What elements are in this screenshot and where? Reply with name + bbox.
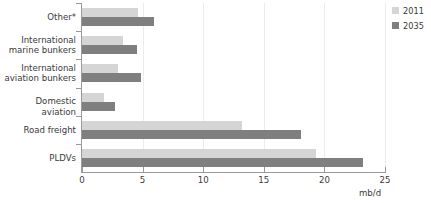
legend-label: 2035 (403, 21, 424, 31)
x-tick-label: 5 (123, 175, 163, 185)
bar-2035 (82, 102, 115, 111)
bar-group (82, 36, 385, 54)
bar-2011 (82, 8, 138, 17)
category-label: International marine bunkers (0, 35, 76, 56)
gridline (264, 3, 265, 172)
x-tick (143, 167, 144, 172)
y-tick (76, 144, 81, 145)
category-label: Road freight (0, 125, 76, 136)
bar-2035 (82, 130, 301, 139)
bar-2011 (82, 121, 242, 130)
legend-label: 2011 (403, 6, 424, 16)
gridline (143, 3, 144, 172)
category-label: International aviation bunkers (0, 63, 76, 84)
x-tick (264, 167, 265, 172)
legend-swatch-icon (392, 22, 399, 29)
bar-group (82, 8, 385, 26)
legend-item: 2035 (392, 21, 424, 30)
legend-swatch-icon (392, 7, 399, 14)
bar-group (82, 93, 385, 111)
gridline (324, 3, 325, 172)
bar-2035 (82, 17, 154, 26)
chart-legend: 20112035 (392, 6, 424, 36)
category-label: PLDVs (0, 153, 76, 164)
x-tick (82, 167, 83, 172)
bar-2011 (82, 36, 123, 45)
bar-2011 (82, 64, 118, 73)
y-tick (76, 116, 81, 117)
category-label: Other* (0, 12, 76, 23)
x-tick (385, 167, 386, 172)
bar-2035 (82, 73, 141, 82)
legend-item: 2011 (392, 6, 424, 15)
x-tick-label: 25 (365, 175, 405, 185)
bar-group (82, 149, 385, 167)
y-tick (76, 88, 81, 89)
y-tick (76, 3, 81, 4)
x-axis-line (81, 172, 386, 173)
bar-2035 (82, 45, 137, 54)
x-tick-label: 10 (183, 175, 223, 185)
bar-group (82, 121, 385, 139)
x-axis-title: mb/d (340, 188, 400, 198)
x-tick-label: 20 (304, 175, 344, 185)
category-label: Domestic aviation (0, 96, 76, 117)
x-tick-label: 0 (62, 175, 102, 185)
bar-chart: Other*International marine bunkersIntern… (0, 0, 431, 203)
bar-2011 (82, 93, 104, 102)
gridline (203, 3, 204, 172)
x-tick-label: 15 (244, 175, 284, 185)
x-tick (324, 167, 325, 172)
y-tick (76, 31, 81, 32)
plot-area (82, 3, 385, 172)
x-tick (203, 167, 204, 172)
gridline (385, 3, 386, 172)
bar-2011 (82, 149, 316, 158)
bar-2035 (82, 158, 363, 167)
y-tick (76, 59, 81, 60)
bar-group (82, 64, 385, 82)
